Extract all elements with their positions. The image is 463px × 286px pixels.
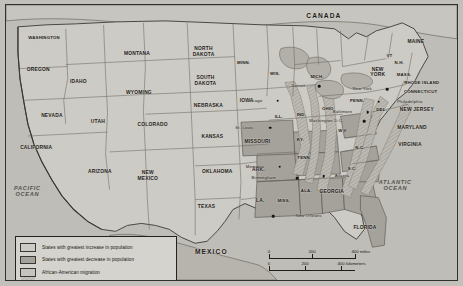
hatch-fill-icon — [21, 277, 35, 281]
city-dot-detroit — [318, 85, 321, 88]
scale-tick — [305, 266, 306, 271]
city-dot-st-louis — [269, 127, 272, 130]
scale-unit-miles: miles — [360, 249, 370, 254]
scale-line-kilometers — [269, 270, 355, 271]
legend-label-decrease: States with greatest decrease in populat… — [42, 257, 134, 262]
city-dot-atlanta — [323, 175, 326, 178]
city-dot-washington-dc — [363, 120, 366, 123]
city-dot-memphis — [279, 165, 282, 168]
map-frame: CANADAMEXICOPACIFICOCEANATLANTICOCEANWAS… — [5, 4, 458, 281]
legend-swatch-migration — [20, 268, 36, 277]
legend-item-decrease: States with greatest decrease in populat… — [20, 254, 176, 267]
scale-unit-kilometers: kilometers — [346, 261, 366, 266]
scale-label-km-400: 400 — [337, 261, 344, 266]
legend-item-increase: States with greatest increase in populat… — [20, 241, 176, 254]
city-dot-chicago — [277, 99, 280, 102]
scale-bar: 0 200 400 miles 0 200 400 kilometers — [261, 251, 376, 277]
scale-tick — [312, 254, 313, 259]
scale-label-km-0: 0 — [268, 261, 270, 266]
legend-swatch-increase — [20, 243, 36, 252]
scale-label-miles-0: 0 — [268, 249, 270, 254]
scale-tick — [269, 254, 270, 259]
legend-item-migration: African-American migration — [20, 266, 176, 279]
scale-tick — [269, 266, 270, 271]
city-dot-philadelphia — [377, 100, 380, 103]
scale-label-km-200: 200 — [301, 261, 308, 266]
scale-label-miles-400: 400 — [351, 249, 358, 254]
city-dot-new-york — [386, 88, 389, 91]
city-dot-birmingham — [296, 177, 299, 180]
scale-tick — [341, 266, 342, 271]
migration-map-figure: CANADAMEXICOPACIFICOCEANATLANTICOCEANWAS… — [0, 0, 463, 286]
legend-label-increase: States with greatest increase in populat… — [42, 245, 133, 250]
city-dot-baltimore — [367, 111, 370, 114]
legend-label-migration: African-American migration — [42, 270, 100, 275]
legend-swatch-decrease — [20, 256, 36, 265]
scale-label-miles-200: 200 — [308, 249, 315, 254]
scale-tick — [355, 254, 356, 259]
map-legend: States with greatest increase in populat… — [15, 236, 177, 281]
city-dot-new-orleans — [272, 215, 275, 218]
